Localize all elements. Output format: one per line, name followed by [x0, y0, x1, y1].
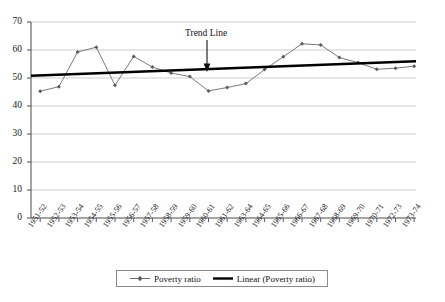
legend-label-poverty-ratio: Poverty ratio	[154, 274, 201, 284]
chart-plot-area	[0, 0, 445, 302]
y-tick-label-70: 70	[2, 16, 22, 26]
y-tick-label-60: 60	[2, 44, 22, 54]
chart-legend: Poverty ratio Linear (Poverty ratio)	[116, 270, 328, 287]
clipped-caption-strip	[0, 292, 445, 302]
legend-item-linear-poverty-ratio[interactable]: Linear (Poverty ratio)	[212, 274, 315, 284]
y-tick-label-40: 40	[2, 100, 22, 110]
y-tick-label-30: 30	[2, 128, 22, 138]
series-linear-trendline	[31, 61, 416, 76]
trend-line-arrow-icon	[204, 40, 211, 72]
legend-item-poverty-ratio[interactable]: Poverty ratio	[129, 274, 201, 284]
gridlines	[31, 22, 416, 190]
y-tick-marks	[27, 22, 31, 218]
poverty-ratio-chart-figure: 70 60 50 40 30 20 10 0 1951-52 1952-53 1…	[0, 0, 445, 302]
y-tick-label-0: 0	[2, 212, 22, 222]
legend-thick-line-icon	[212, 274, 234, 283]
legend-line-marker-icon	[129, 274, 151, 283]
y-tick-label-50: 50	[2, 72, 22, 82]
y-tick-label-10: 10	[2, 184, 22, 194]
legend-label-linear-poverty-ratio: Linear (Poverty ratio)	[237, 274, 315, 284]
y-tick-label-20: 20	[2, 156, 22, 166]
trend-line-annotation-label: Trend Line	[185, 28, 227, 38]
